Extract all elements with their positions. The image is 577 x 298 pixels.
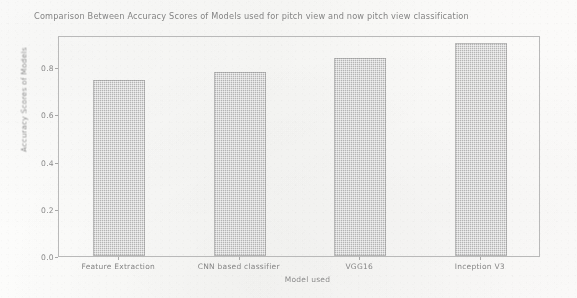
y-axis-tick-labels: 0.00.20.40.60.8	[34, 36, 54, 257]
x-axis-tick-mark	[359, 257, 360, 260]
y-axis-tick-mark	[55, 257, 58, 258]
y-axis-label: Accuracy Scores of Models	[20, 40, 29, 160]
plot-area	[58, 36, 540, 257]
y-axis-tick-label: 0.6	[41, 111, 54, 120]
x-axis-tick-mark	[239, 257, 240, 260]
bar	[214, 72, 266, 256]
bar	[455, 43, 507, 256]
y-axis-tick-label: 0.4	[41, 158, 54, 167]
x-axis-tick-mark	[118, 257, 119, 260]
x-axis-tick-mark	[480, 257, 481, 260]
x-axis-tick-label: VGG16	[345, 262, 373, 271]
x-axis-label: Model used	[0, 275, 577, 284]
bar	[93, 80, 145, 256]
chart-canvas: Comparison Between Accuracy Scores of Mo…	[0, 0, 577, 298]
x-axis-tick-label: Inception V3	[455, 262, 505, 271]
x-axis-label-text: Model used	[285, 275, 330, 284]
bars-container	[59, 37, 539, 256]
y-axis-tick-label: 0.8	[41, 64, 54, 73]
x-axis-tick-label: CNN based classifier	[198, 262, 280, 271]
bar	[334, 58, 386, 256]
x-axis-tick-label: Feature Extraction	[81, 262, 155, 271]
chart-title: Comparison Between Accuracy Scores of Mo…	[34, 11, 554, 21]
y-axis-tick-label: 0.0	[41, 253, 54, 262]
y-axis-tick-label: 0.2	[41, 205, 54, 214]
